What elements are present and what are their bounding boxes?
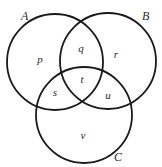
region-label-q: q [78,42,84,54]
circle-c [36,67,132,163]
region-label-t: t [80,73,84,85]
region-label-r: r [114,48,119,60]
set-label-b: B [142,9,150,23]
region-label-v: v [81,129,86,141]
set-label-c: C [114,150,123,164]
region-label-p: p [36,53,43,65]
region-label-s: s [53,86,57,98]
venn-diagram-svg: A B C p q r t s u v [0,0,162,167]
region-label-u: u [105,89,111,101]
venn-diagram: A B C p q r t s u v [0,0,162,167]
set-label-a: A [20,9,29,23]
